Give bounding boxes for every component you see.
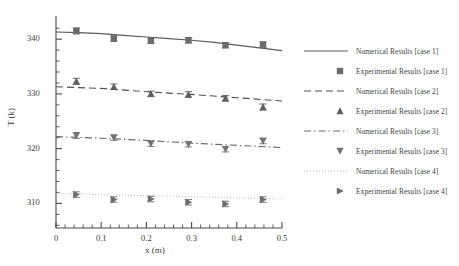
legend-item-label: Experimental Results [case 4]	[352, 187, 447, 196]
y-tick-label: 310	[27, 197, 40, 207]
y-tick-label: 340	[27, 33, 40, 43]
legend-item: Numerical Results [case 3]	[300, 121, 458, 141]
chart-figure: T (k) x (m) 31032033034000.10.20.30.40.5…	[0, 0, 459, 266]
legend-key-marker-triangle-down	[300, 141, 352, 161]
legend-item: Experimental Results [case 2]	[300, 101, 458, 121]
legend-key-line-dashed	[300, 81, 352, 101]
series-6	[73, 132, 267, 153]
series-8	[73, 191, 267, 208]
legend-item-label: Experimental Results [case 2]	[352, 107, 447, 116]
x-axis-title: x (m)	[145, 245, 165, 255]
legend-key-marker-square	[300, 61, 352, 81]
legend-item: Numerical Results [case 2]	[300, 81, 458, 101]
series-3	[56, 87, 282, 101]
x-tick-label: 0.5	[275, 233, 289, 243]
x-tick-label: 0.4	[230, 233, 244, 243]
y-axis-title: T (k)	[6, 94, 16, 140]
legend-item-label: Numerical Results [case 2]	[352, 87, 438, 96]
series-7	[56, 194, 282, 199]
series-1	[56, 32, 282, 51]
x-tick-label: 0.1	[94, 233, 108, 243]
legend-item: Numerical Results [case 4]	[300, 161, 458, 181]
legend-item: Experimental Results [case 4]	[300, 181, 458, 201]
legend-item-label: Experimental Results [case 1]	[352, 67, 447, 76]
series-5	[56, 137, 282, 148]
legend-key-marker-triangle-up	[300, 101, 352, 121]
y-tick-label: 330	[27, 88, 40, 98]
legend-item: Numerical Results [case 1]	[300, 41, 458, 61]
series-4	[73, 78, 267, 111]
axes	[56, 16, 282, 228]
legend-item: Experimental Results [case 3]	[300, 141, 458, 161]
legend-item-label: Numerical Results [case 4]	[352, 167, 438, 176]
y-tick-label: 320	[27, 143, 40, 153]
legend-key-line-dashdot	[300, 121, 352, 141]
legend-item-label: Experimental Results [case 3]	[352, 147, 447, 156]
x-tick-label: 0.3	[185, 233, 199, 243]
data-series	[56, 28, 282, 208]
legend-key-line-solid	[300, 41, 352, 61]
x-tick-label: 0.2	[139, 233, 153, 243]
legend-key-line-dotted	[300, 161, 352, 181]
legend-item-label: Numerical Results [case 1]	[352, 47, 438, 56]
x-tick-label: 0	[49, 233, 63, 243]
legend-item-label: Numerical Results [case 3]	[352, 127, 438, 136]
chart-legend: Numerical Results [case 1] Experimental …	[300, 41, 458, 201]
legend-item: Experimental Results [case 1]	[300, 61, 458, 81]
legend-key-marker-triangle-right	[300, 181, 352, 201]
